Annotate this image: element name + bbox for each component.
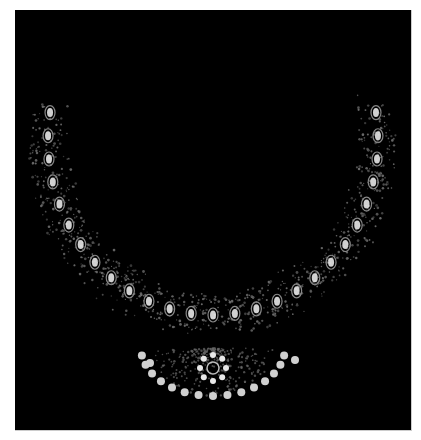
necklace-photo: necklace [15, 10, 412, 431]
necklace-illustration [15, 10, 411, 430]
